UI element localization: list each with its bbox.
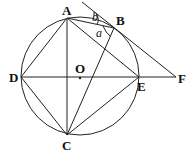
angle-arc-a [103,26,110,36]
angle-label-a: a [96,26,102,40]
segment-bc [67,28,114,135]
label-b: B [116,13,125,28]
label-a: A [62,3,72,18]
label-o: O [75,61,85,76]
angle-label-b: b [92,10,98,24]
label-f: F [178,71,186,86]
label-c: C [62,138,71,153]
center-dot [79,77,81,79]
geometry-diagram: A B C D E F O b a [0,0,192,154]
segment-dc [21,77,67,135]
label-d: D [9,70,18,85]
label-e: E [137,79,146,94]
circle-o [21,17,139,135]
segment-ce [67,77,139,135]
